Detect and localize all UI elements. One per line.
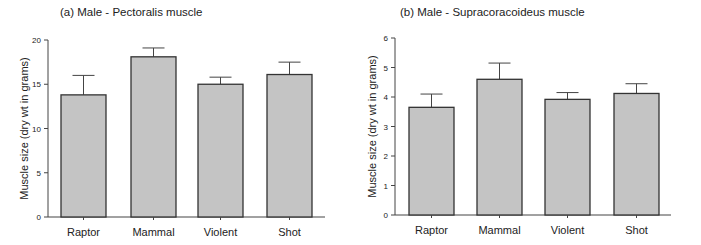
bar-rect: [614, 93, 659, 215]
bar-rect: [477, 79, 522, 215]
bar-mammal: [477, 63, 522, 215]
bar-rect: [409, 107, 454, 215]
chart-panel-b: (b) Male - Supracoracoideus muscle 01234…: [0, 0, 701, 245]
x-tick-label: Mammal: [478, 224, 520, 236]
y-tick-label: 0: [384, 211, 389, 220]
bar-raptor: [409, 94, 454, 215]
bar-shot: [614, 84, 659, 215]
y-axis-title: Muscle size (dry wt in grams): [366, 55, 378, 197]
x-tick-label: Violent: [551, 224, 584, 236]
y-tick-label: 5: [384, 64, 389, 73]
bar-violent: [545, 93, 590, 215]
bar-chart-b: 0123456Muscle size (dry wt in grams)Rapt…: [0, 0, 701, 245]
y-tick-label: 3: [384, 123, 389, 132]
x-tick-label: Shot: [625, 224, 648, 236]
y-tick-label: 6: [384, 34, 389, 43]
y-tick-label: 1: [384, 182, 389, 191]
bar-rect: [545, 99, 590, 215]
y-tick-label: 4: [384, 93, 389, 102]
y-tick-label: 2: [384, 152, 389, 161]
x-tick-label: Raptor: [415, 224, 448, 236]
